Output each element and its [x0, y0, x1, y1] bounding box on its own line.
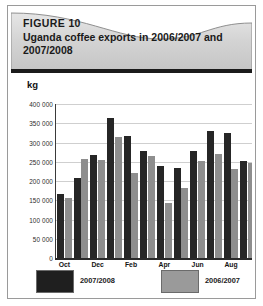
figure-number: FIGURE 10 [23, 17, 238, 30]
y-axis-tick-label: 50 000 [33, 235, 53, 242]
bar-jul-series2 [215, 154, 222, 258]
bar-jan-series1 [107, 118, 114, 258]
gridline [56, 123, 252, 124]
bar-jul-series1 [207, 131, 214, 258]
y-axis-tick-label: 400 000 [29, 101, 53, 108]
header-text-block: FIGURE 10 Uganda coffee exports in 2006/… [23, 17, 238, 57]
y-axis-unit-label: kg [27, 79, 38, 90]
figure-card: FIGURE 10 Uganda coffee exports in 2006/… [0, 0, 263, 306]
y-axis-tick-label: 350 000 [29, 120, 53, 127]
y-axis-tick-label: 100 000 [29, 216, 53, 223]
bar-mar-series1 [140, 151, 147, 258]
x-axis-tick-label-dec: Dec [91, 261, 103, 268]
y-axis-tick-label: 250 000 [29, 158, 53, 165]
bar-nov-series2 [81, 159, 88, 258]
x-axis-tick-label-feb: Feb [125, 261, 137, 268]
x-axis-tick-label-jun: Jun [192, 261, 204, 268]
legend-swatch-gray [161, 270, 199, 293]
bar-oct-series1 [57, 194, 64, 258]
bar-apr-series2 [165, 203, 172, 258]
plot-area [56, 104, 252, 258]
y-axis-tick-label: 0 [49, 255, 53, 262]
bar-may-series2 [181, 188, 188, 258]
gridline [56, 143, 252, 144]
legend-swatch-dark [36, 270, 74, 293]
gridline [56, 104, 252, 105]
bar-feb-series1 [124, 136, 131, 258]
y-axis-tick-label: 200 000 [29, 178, 53, 185]
bar-aug-series2 [231, 169, 238, 258]
y-axis-tick-label: 150 000 [29, 197, 53, 204]
bar-dec-series2 [98, 160, 105, 258]
legend-label: 2006/2007 [205, 276, 240, 285]
y-axis-tick-labels: 400 000350 000300 000250 000200 000150 0… [11, 104, 53, 258]
bar-sep-series1 [240, 161, 247, 258]
figure-header: FIGURE 10 Uganda coffee exports in 2006/… [11, 9, 252, 73]
x-axis-tick-label-aug: Aug [224, 261, 237, 268]
legend-label: 2007/2008 [80, 276, 115, 285]
y-axis-line [55, 104, 56, 259]
bar-jun-series1 [190, 151, 197, 258]
bar-dec-series1 [90, 155, 97, 258]
figure-title: Uganda coffee exports in 2006/2007 and 2… [23, 31, 238, 57]
bar-jun-series2 [198, 161, 205, 258]
bar-oct-series2 [65, 198, 72, 258]
bar-may-series1 [174, 168, 181, 258]
chart-panel: kg 400 000350 000300 000250 000200 00015… [11, 75, 252, 295]
bar-jan-series2 [115, 137, 122, 258]
header-divider-rule [11, 69, 252, 73]
chart-legend: 2007/2008 2006/2007 [11, 270, 252, 296]
x-axis-line [55, 258, 252, 260]
bar-feb-series2 [131, 173, 138, 258]
bar-apr-series1 [157, 166, 164, 258]
x-axis-tick-label-oct: Oct [59, 261, 70, 268]
bar-nov-series1 [74, 178, 81, 258]
bar-mar-series2 [148, 156, 155, 258]
bar-sep-series2 [248, 163, 252, 258]
bar-aug-series1 [224, 133, 231, 258]
x-axis-tick-label-apr: Apr [158, 261, 170, 268]
y-axis-tick-label: 300 000 [29, 139, 53, 146]
